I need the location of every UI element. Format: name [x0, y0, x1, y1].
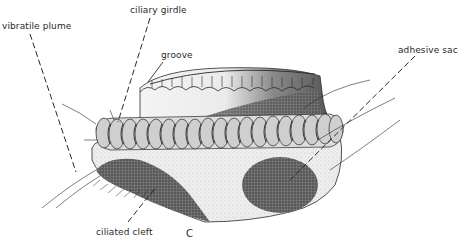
adhesive-sac-region [242, 157, 318, 213]
label-ciliated-cleft: ciliated cleft [96, 227, 153, 237]
label-groove: groove [161, 50, 193, 60]
larva-illustration [0, 0, 459, 241]
label-adhesive-sac: adhesive sac [398, 45, 458, 55]
label-ciliary-girdle: ciliary girdle [130, 5, 187, 15]
ciliary-girdle-band [96, 114, 343, 150]
panel-letter: C [186, 228, 193, 239]
leader-vibratile-plume [30, 34, 76, 172]
label-vibratile-plume: vibratile plume [2, 21, 71, 31]
